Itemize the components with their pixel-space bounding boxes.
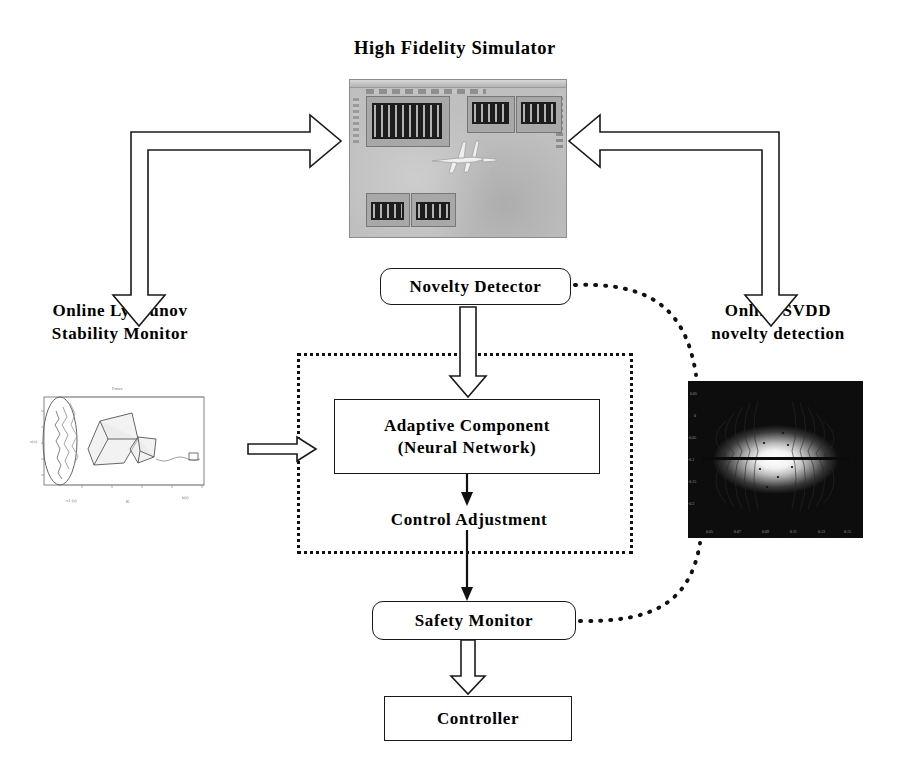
simulator-scope-2 bbox=[472, 102, 509, 124]
svdd-caption-line2: novelty detection bbox=[711, 324, 844, 343]
lyapunov-caption-line2: Stability Monitor bbox=[52, 324, 188, 343]
svg-text:0.13: 0.13 bbox=[818, 529, 825, 534]
node-safety-monitor[interactable]: Safety Monitor bbox=[372, 601, 576, 640]
connector-simulator-to-lyapunov bbox=[113, 115, 341, 326]
diagram-canvas: High Fidelity Simulator bbox=[0, 0, 910, 777]
connector-safety-to-controller bbox=[451, 640, 485, 694]
svg-text:0.11: 0.11 bbox=[790, 529, 797, 534]
node-novelty-detector[interactable]: Novelty Detector bbox=[380, 268, 571, 305]
svg-text:-0.05: -0.05 bbox=[688, 435, 696, 440]
svg-text:K: K bbox=[126, 499, 130, 504]
svdd-horizontal-band bbox=[702, 457, 849, 460]
simulator-trace-1 bbox=[374, 105, 440, 137]
svg-text:0: 0 bbox=[694, 413, 696, 418]
simulator-panel-top-right-b bbox=[516, 96, 562, 133]
svg-text:0.05: 0.05 bbox=[690, 391, 697, 396]
adaptive-component-line1: Adaptive Component bbox=[384, 416, 550, 435]
adaptive-component-line2: (Neural Network) bbox=[398, 438, 536, 457]
simulator-left-strip bbox=[353, 97, 359, 143]
simulator-scope-1 bbox=[372, 103, 442, 139]
svg-text:k(t): k(t) bbox=[182, 495, 189, 500]
svg-text:-0.2: -0.2 bbox=[688, 501, 694, 506]
svg-text:0.15: 0.15 bbox=[844, 529, 851, 534]
simulator-scope-4 bbox=[371, 202, 404, 220]
simulator-trace-4 bbox=[373, 204, 402, 218]
simulator-scope-5 bbox=[416, 202, 450, 220]
simulator-panel-bottom-b bbox=[411, 193, 456, 227]
label-control-adjustment: Control Adjustment bbox=[344, 509, 594, 532]
svg-text:-0.1: -0.1 bbox=[688, 457, 694, 462]
node-adaptive-component[interactable]: Adaptive Component (Neural Network) bbox=[334, 399, 600, 474]
simulator-screenshot-image bbox=[349, 79, 567, 238]
svg-text:-0.15: -0.15 bbox=[688, 479, 696, 484]
page-title: High Fidelity Simulator bbox=[310, 36, 600, 61]
simulator-scope-3 bbox=[521, 102, 556, 124]
svg-text:0.09: 0.09 bbox=[762, 529, 769, 534]
simulator-panel-top-right-a bbox=[467, 96, 515, 133]
lyapunov-caption: Online Lyapunov Stability Monitor bbox=[14, 300, 226, 346]
node-controller[interactable]: Controller bbox=[384, 696, 572, 741]
simulator-panel-bottom-a bbox=[366, 193, 410, 227]
svg-text:0.07: 0.07 bbox=[734, 529, 741, 534]
connector-simulator-to-svdd bbox=[569, 115, 797, 326]
simulator-trace-3 bbox=[523, 104, 554, 122]
svdd-caption: Online SVDD novelty detection bbox=[672, 300, 884, 346]
lyapunov-caption-line1: Online Lyapunov bbox=[52, 301, 187, 320]
lyapunov-plot-image: Fmax z(x) x1 (s) K k(t) bbox=[26, 377, 212, 512]
simulator-aircraft-icon bbox=[428, 136, 502, 182]
svdd-contour-plot-image: 0.050 -0.05-0.1 -0.15-0.2 0.050.07 0.090… bbox=[688, 381, 863, 538]
svg-text:z(x): z(x) bbox=[30, 439, 38, 444]
simulator-trace-5 bbox=[418, 204, 448, 218]
svg-text:0.05: 0.05 bbox=[706, 529, 713, 534]
simulator-titlebar bbox=[350, 80, 566, 88]
simulator-trace-2 bbox=[474, 104, 507, 122]
svg-text:Fmax: Fmax bbox=[112, 386, 123, 391]
svg-text:x1 (s): x1 (s) bbox=[66, 498, 77, 503]
connector-safety-to-svdd bbox=[580, 543, 700, 621]
svdd-caption-line1: Online SVDD bbox=[725, 301, 831, 320]
